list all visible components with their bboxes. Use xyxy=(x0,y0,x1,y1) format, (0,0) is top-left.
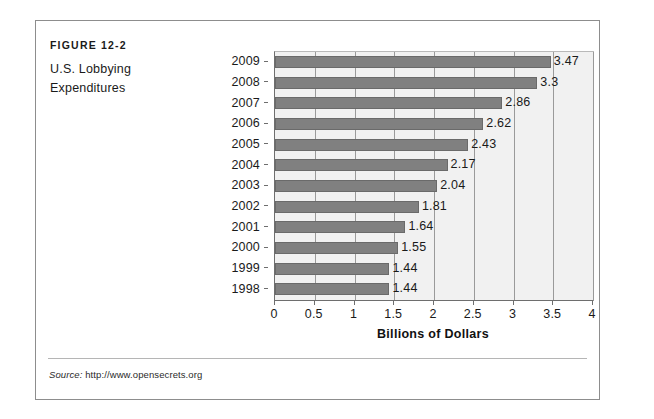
x-axis-title: Billions of Dollars xyxy=(274,327,592,341)
x-axis-label: 0.5 xyxy=(305,307,323,321)
bar-value-label: 2.62 xyxy=(483,116,511,130)
bar-rows: 3.473.32.862.622.432.172.041.811.641.551… xyxy=(275,52,593,300)
x-axis-label: 1.5 xyxy=(384,307,402,321)
y-axis-tick xyxy=(264,185,268,186)
plot-area: 3.473.32.862.622.432.172.041.811.641.551… xyxy=(274,51,594,301)
bar xyxy=(275,180,437,192)
bar xyxy=(275,263,389,275)
y-axis-label: 2003 xyxy=(196,175,268,196)
source-divider xyxy=(48,358,587,359)
bar-value-label: 2.86 xyxy=(502,95,530,109)
table-row: 1.55 xyxy=(275,238,593,259)
y-axis-label: 2009 xyxy=(196,51,268,72)
bar xyxy=(275,201,419,213)
table-row: 2.04 xyxy=(275,176,593,197)
x-axis-tick xyxy=(433,301,434,305)
x-axis-tick xyxy=(592,301,593,305)
y-axis-label: 2007 xyxy=(196,92,268,113)
table-row: 2.86 xyxy=(275,93,593,114)
x-axis-tick xyxy=(274,301,275,305)
y-axis-tick xyxy=(264,123,268,124)
bar xyxy=(275,118,483,130)
y-axis-tick xyxy=(264,267,268,268)
bar xyxy=(275,221,405,233)
x-axis-label: 3.5 xyxy=(543,307,561,321)
y-axis-label: 1998 xyxy=(196,278,268,299)
table-row: 1.64 xyxy=(275,217,593,238)
bar-value-label: 2.17 xyxy=(448,157,476,171)
bar-value-label: 1.81 xyxy=(419,199,447,213)
y-axis-tick xyxy=(264,102,268,103)
y-axis-tick xyxy=(264,164,268,165)
bar xyxy=(275,97,502,109)
table-row: 2.43 xyxy=(275,135,593,156)
y-axis-tick xyxy=(264,288,268,289)
x-axis-tick xyxy=(552,301,553,305)
y-axis-tick xyxy=(264,143,268,144)
bar xyxy=(275,56,551,68)
bar xyxy=(275,283,389,295)
table-row: 3.3 xyxy=(275,73,593,94)
y-axis-labels: 2009200820072006200520042003200220012000… xyxy=(196,51,268,299)
y-axis-label: 2002 xyxy=(196,196,268,217)
x-axis-tick xyxy=(314,301,315,305)
y-axis-label: 2001 xyxy=(196,216,268,237)
bar-value-label: 1.55 xyxy=(398,240,426,254)
x-axis-label: 2.5 xyxy=(464,307,482,321)
bar-value-label: 1.44 xyxy=(389,261,417,275)
y-axis-label: 2005 xyxy=(196,134,268,155)
y-axis-label: 1999 xyxy=(196,258,268,279)
bar-value-label: 3.47 xyxy=(551,54,579,68)
x-axis-label: 4 xyxy=(588,307,595,321)
source-note: Source: http://www.opensecrets.org xyxy=(49,369,202,380)
figure-label: FIGURE 12-2 xyxy=(50,39,200,51)
x-axis-tick xyxy=(393,301,394,305)
bar xyxy=(275,159,448,171)
bar-chart: 2009200820072006200520042003200220012000… xyxy=(196,47,586,347)
y-axis-tick xyxy=(264,61,268,62)
table-row: 2.17 xyxy=(275,155,593,176)
gridline xyxy=(593,52,594,300)
x-axis-label: 1 xyxy=(350,307,357,321)
bar xyxy=(275,139,468,151)
x-axis-label: 2 xyxy=(429,307,436,321)
figure-caption-line-1: U.S. Lobbying xyxy=(50,60,200,79)
figure-frame: FIGURE 12-2 U.S. Lobbying Expenditures 2… xyxy=(35,20,600,400)
y-axis-tick xyxy=(264,226,268,227)
table-row: 1.44 xyxy=(275,279,593,300)
figure-caption-line-2: Expenditures xyxy=(50,79,200,98)
y-axis-tick xyxy=(264,205,268,206)
x-axis-tick xyxy=(473,301,474,305)
x-axis-tick xyxy=(513,301,514,305)
x-axis-label: 0 xyxy=(270,307,277,321)
y-axis-label: 2008 xyxy=(196,72,268,93)
x-axis: 00.511.522.533.54 Billions of Dollars xyxy=(274,301,594,341)
y-axis-tick xyxy=(264,247,268,248)
x-axis-label: 3 xyxy=(509,307,516,321)
source-prefix: Source: xyxy=(49,369,82,380)
bar-value-label: 2.43 xyxy=(468,137,496,151)
bar xyxy=(275,242,398,254)
y-axis-label: 2006 xyxy=(196,113,268,134)
bar-value-label: 2.04 xyxy=(437,178,465,192)
x-axis-tick xyxy=(354,301,355,305)
y-axis-label: 2000 xyxy=(196,237,268,258)
table-row: 1.44 xyxy=(275,259,593,280)
source-url: http://www.opensecrets.org xyxy=(85,369,202,380)
bar-value-label: 3.3 xyxy=(537,75,558,89)
bar xyxy=(275,77,537,89)
bar-value-label: 1.64 xyxy=(405,219,433,233)
table-row: 1.81 xyxy=(275,197,593,218)
table-row: 3.47 xyxy=(275,52,593,73)
figure-caption: FIGURE 12-2 U.S. Lobbying Expenditures xyxy=(50,39,200,99)
bar-value-label: 1.44 xyxy=(389,281,417,295)
table-row: 2.62 xyxy=(275,114,593,135)
y-axis-tick xyxy=(264,81,268,82)
y-axis-label: 2004 xyxy=(196,154,268,175)
